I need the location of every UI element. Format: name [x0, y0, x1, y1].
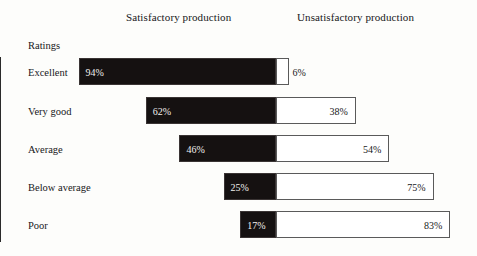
bar-value-unsatisfactory: 54%	[363, 143, 381, 154]
bar-unsatisfactory: 6%	[276, 58, 289, 85]
bar-unsatisfactory: 54%	[276, 135, 389, 162]
column-header-satisfactory: Satisfactory production	[126, 11, 231, 23]
bar-value-satisfactory: 46%	[186, 143, 204, 154]
table-row: Very good62%38%	[0, 96, 477, 126]
table-row: Excellent94%6%	[0, 57, 477, 87]
axis-title-ratings: Ratings	[28, 40, 60, 51]
bar-satisfactory: 17%	[240, 211, 276, 238]
row-label-below-average: Below average	[28, 182, 91, 193]
bar-value-satisfactory: 62%	[153, 105, 171, 116]
row-label-poor: Poor	[28, 220, 48, 231]
row-label-average: Average	[28, 144, 63, 155]
bar-value-unsatisfactory: 75%	[407, 181, 425, 192]
row-label-excellent: Excellent	[28, 67, 68, 78]
bar-satisfactory: 94%	[79, 58, 276, 85]
bar-value-satisfactory: 94%	[86, 66, 104, 77]
bar-satisfactory: 25%	[224, 173, 277, 200]
bar-value-unsatisfactory: 83%	[424, 219, 442, 230]
bar-unsatisfactory: 38%	[276, 97, 356, 124]
column-header-unsatisfactory: Unsatisfactory production	[297, 11, 414, 23]
table-row: Average46%54%	[0, 134, 477, 164]
bar-satisfactory: 62%	[146, 97, 276, 124]
bar-satisfactory: 46%	[179, 135, 276, 162]
table-row: Below average25%75%	[0, 172, 477, 202]
bar-value-unsatisfactory: 6%	[293, 66, 306, 77]
diverging-bar-chart: Satisfactory production Unsatisfactory p…	[0, 0, 477, 256]
row-label-very-good: Very good	[28, 106, 71, 117]
bar-value-unsatisfactory: 38%	[329, 105, 347, 116]
bar-unsatisfactory: 75%	[276, 173, 434, 200]
bar-value-satisfactory: 25%	[231, 181, 249, 192]
bar-value-satisfactory: 17%	[247, 219, 265, 230]
bar-unsatisfactory: 83%	[276, 211, 450, 238]
table-row: Poor17%83%	[0, 210, 477, 240]
